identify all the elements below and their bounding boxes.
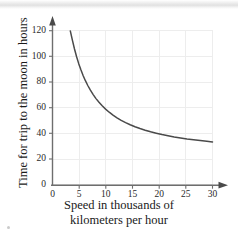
y-axis-title: Time for trip to the moon in hours (15, 18, 31, 188)
x-axis-title-line2: kilometers per hour (28, 213, 210, 228)
x-axis-title-line1: Speed in thousands of (28, 198, 210, 213)
data-curve-inverse-variation (70, 31, 212, 142)
y-axis-title-container: Time for trip to the moon in hours (15, 18, 31, 188)
x-axis-arrowhead (219, 182, 229, 189)
x-axis-title: Speed in thousands of kilometers per hou… (28, 198, 210, 228)
y-axis-arrowhead (49, 16, 56, 26)
chart-figure: 120 100 80 60 40 20 0 0 5 10 15 20 25 30… (0, 0, 238, 240)
